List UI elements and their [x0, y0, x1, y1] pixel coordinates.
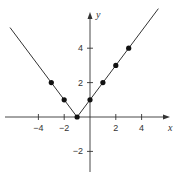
x-axis-label: x	[167, 122, 173, 133]
chart: −4−22442−2xy	[0, 0, 177, 180]
x-tick-label: 4	[139, 123, 144, 133]
y-tick-label: 4	[78, 43, 83, 53]
x-tick-label: −2	[59, 123, 69, 133]
y-axis-arrow-icon	[88, 12, 93, 19]
y-tick-label: −2	[73, 146, 83, 156]
y-axis-label: y	[95, 9, 101, 20]
data-point	[49, 80, 54, 85]
data-point	[75, 114, 80, 119]
curve	[10, 9, 158, 117]
y-tick-label: 2	[78, 78, 83, 88]
abs-value-line	[10, 9, 158, 117]
data-point	[126, 46, 131, 51]
x-tick-label: 2	[113, 123, 118, 133]
x-axis-arrow-icon	[163, 115, 170, 120]
x-tick-label: −4	[33, 123, 43, 133]
data-point	[87, 97, 92, 102]
data-point	[100, 80, 105, 85]
axes	[5, 12, 170, 172]
data-point	[62, 97, 67, 102]
data-point	[113, 63, 118, 68]
